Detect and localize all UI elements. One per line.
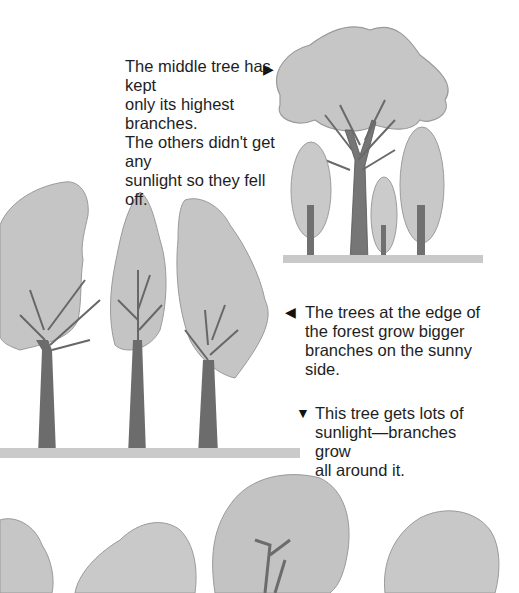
- edge-trees-illustration: [0, 182, 300, 458]
- tall-tree-crown: [277, 27, 449, 131]
- caption-line: side.: [305, 360, 485, 379]
- small-tree-trunk-1: [307, 205, 314, 262]
- caption-line: The others didn't get any: [125, 133, 285, 171]
- caption-line: all around it.: [315, 461, 495, 480]
- edge-tree-trunk-3: [198, 360, 218, 455]
- caption-line: sunlight so they fell off.: [125, 171, 285, 209]
- arrow-down-icon: ▼: [296, 406, 310, 420]
- caption-open-tree: This tree gets lots of sunlight—branches…: [315, 404, 495, 480]
- caption-line: This tree gets lots of: [315, 404, 495, 423]
- grass-strip-middle: [0, 448, 300, 458]
- open-tree-crown-1: [0, 519, 53, 593]
- caption-line: only its highest branches.: [125, 95, 285, 133]
- caption-line: The trees at the edge of: [305, 303, 485, 322]
- small-tree-trunk-3: [417, 205, 425, 262]
- grass-strip-top: [283, 255, 483, 263]
- caption-edge-trees: The trees at the edge of the forest grow…: [305, 303, 485, 379]
- edge-tree-trunk-1: [36, 340, 56, 455]
- open-tree-crown-2: [75, 523, 196, 593]
- edge-tree-trunk-2: [128, 340, 146, 455]
- edge-tree-crown-3: [177, 199, 268, 378]
- arrow-left-icon: ◀: [285, 305, 296, 319]
- open-tree-crown-4: [384, 511, 498, 593]
- forest-trees-illustration: [277, 27, 483, 263]
- edge-tree-crown-1: [0, 182, 88, 350]
- caption-line: sunlight—branches grow: [315, 423, 495, 461]
- caption-line: the forest grow bigger: [305, 322, 485, 341]
- caption-line: The middle tree has kept: [125, 57, 285, 95]
- tall-tree-trunk: [345, 120, 376, 262]
- caption-forest-tree: The middle tree has kept only its highes…: [125, 57, 285, 209]
- caption-line: branches on the sunny: [305, 341, 485, 360]
- open-trees-illustration: [0, 475, 499, 593]
